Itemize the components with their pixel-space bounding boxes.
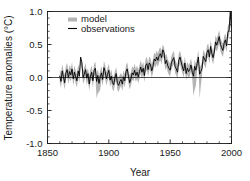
- legend-swatch-model: [68, 18, 77, 22]
- legend-label-observations: observations: [81, 23, 135, 34]
- y-tick-label: -1.0: [26, 138, 42, 149]
- y-tick-label: 0.5: [29, 39, 42, 50]
- y-tick-label: -0.5: [26, 105, 42, 116]
- y-axis-title: Temperature anomalies (°C): [3, 15, 14, 140]
- x-tick-label: 1950: [160, 147, 181, 158]
- x-axis-title: Year: [130, 167, 151, 178]
- temperature-anomalies-chart: 1850190019502000 -1.0-0.50.00.51.0 Year …: [0, 0, 250, 181]
- y-tick-label: 0.0: [29, 72, 42, 83]
- x-tick-label: 2000: [221, 147, 242, 158]
- figure-container: 1850190019502000 -1.0-0.50.00.51.0 Year …: [0, 0, 250, 181]
- y-tick-label: 1.0: [29, 6, 42, 17]
- x-tick-label: 1900: [98, 147, 119, 158]
